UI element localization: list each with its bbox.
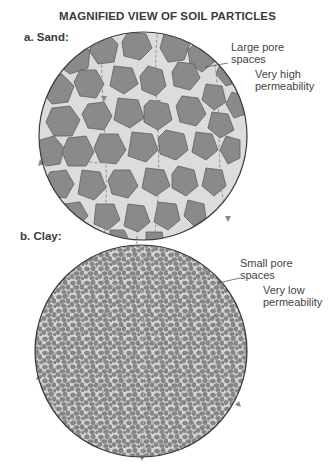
sand-permeability-label: Very high permeability <box>255 68 314 92</box>
clay-pore-label-line2: spaces <box>240 269 293 281</box>
sand-permeability-line1: Very high <box>255 68 314 80</box>
clay-pore-label-line1: Small pore <box>240 257 293 269</box>
clay-permeability-line2: permeability <box>263 296 322 308</box>
sand-magnified-view <box>38 30 247 244</box>
clay-pore-leader-line <box>218 278 240 283</box>
sand-pore-label-line2: spaces <box>231 53 284 65</box>
sand-pore-label: Large pore spaces <box>231 41 284 65</box>
sand-pore-label-line1: Large pore <box>231 41 284 53</box>
clay-permeability-label: Very low permeability <box>263 284 322 308</box>
clay-pore-label: Small pore spaces <box>240 257 293 281</box>
clay-magnified-view <box>35 245 247 461</box>
clay-permeability-line1: Very low <box>263 284 322 296</box>
sand-permeability-line2: permeability <box>255 80 314 92</box>
